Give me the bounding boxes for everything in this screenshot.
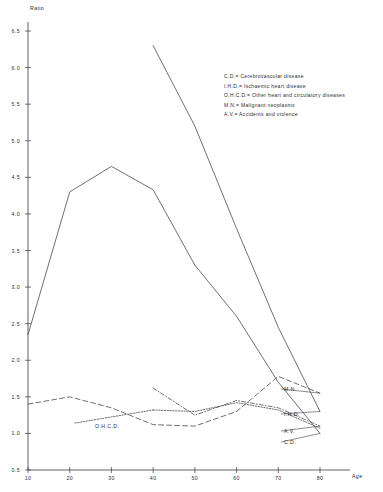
y-tick-label: 0.5 [12, 467, 20, 473]
legend-entry: C.D.= Cerebrovascular disease [224, 73, 304, 79]
chart-figure: Ratio Age 0.51.01.52.02.53.03.54.04.55.0… [0, 0, 383, 492]
x-tick-label: 20 [66, 475, 73, 481]
y-tick-label: 6.0 [12, 65, 20, 71]
y-tick-label: 5.5 [12, 101, 20, 107]
y-tick-label: 2.0 [12, 357, 20, 363]
x-tick-label: 10 [25, 475, 32, 481]
legend-entry: O.H.C.D.= Other heart and circulatory di… [224, 92, 345, 98]
x-tick-label: 40 [150, 475, 157, 481]
x-tick-label: 60 [233, 475, 240, 481]
series-label-ohcd: O.H.C.D. [95, 423, 119, 429]
series-label-av: A.V. [284, 428, 295, 434]
y-tick-label: 1.5 [12, 394, 20, 400]
series-label-mn: M.N. [284, 386, 297, 392]
legend-entry: A.V.= Accidents and violence [224, 111, 298, 117]
y-tick-label: 1.0 [12, 430, 20, 436]
x-tick-label: 50 [192, 475, 199, 481]
y-tick-label: 4.0 [12, 211, 20, 217]
y-axis-title: Ratio [30, 5, 44, 11]
y-tick-label: 4.5 [12, 174, 20, 180]
legend: C.D.= Cerebrovascular diseaseI.H.D.= Isc… [224, 73, 345, 117]
y-tick-label: 2.5 [12, 321, 20, 327]
y-tick-label: 6.5 [12, 28, 20, 34]
x-tick-label: 30 [108, 475, 115, 481]
y-tick-label: 5.0 [12, 138, 20, 144]
y-tick-label: 3.0 [12, 284, 20, 290]
series-line-cd [28, 166, 320, 433]
series-label-ihd: I.H.D. [284, 411, 300, 417]
leader-line-ohcd [75, 410, 153, 423]
x-tick-label: 80 [317, 475, 324, 481]
legend-entry: I.H.D.= Ischaemic heart disease [224, 83, 306, 89]
series-labels: C.D.I.H.D.M.N.O.H.C.D.A.V. [95, 386, 300, 445]
leader-line [281, 433, 320, 442]
x-tick-label: 70 [275, 475, 282, 481]
x-axis-title: Age [352, 473, 362, 479]
series-line-av [153, 388, 320, 426]
line-chart-svg: Ratio Age 0.51.01.52.02.53.03.54.04.55.0… [0, 0, 383, 492]
y-tick-label: 3.5 [12, 248, 20, 254]
legend-entry: M.N.= Malignant neoplasms [224, 102, 295, 108]
series-line-ihd [153, 46, 320, 412]
x-axis-ticks: 1020304050607080 [25, 467, 324, 481]
